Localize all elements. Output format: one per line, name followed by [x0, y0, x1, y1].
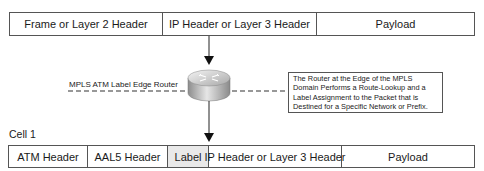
layer3-header-field: IP Header or Layer 3 Header: [209, 146, 342, 167]
callout-line: Label Assignment to the Packet that is: [293, 93, 438, 102]
atm-header-field: ATM Header: [9, 146, 88, 167]
callout-line: Domain Performs a Route-Lookup and a: [293, 83, 438, 92]
cell-title: Cell 1: [9, 128, 36, 140]
label-field: Label: [168, 146, 209, 167]
router-icon: [188, 70, 230, 101]
atm-cell: ATM Header AAL5 Header Label IP Header o…: [8, 145, 475, 168]
callout-line: The Router at the Edge of the MPLS: [293, 74, 438, 83]
aal5-header-field: AAL5 Header: [88, 146, 168, 167]
router-label: MPLS ATM Label Edge Router: [69, 80, 178, 89]
arrow-down-icon: [204, 36, 214, 65]
callout-line: Destined for a Specific Network or Prefi…: [293, 102, 438, 111]
arrow-down-icon: [204, 101, 214, 142]
payload-field: Payload: [342, 146, 474, 167]
callout-box: The Router at the Edge of the MPLS Domai…: [288, 72, 443, 113]
